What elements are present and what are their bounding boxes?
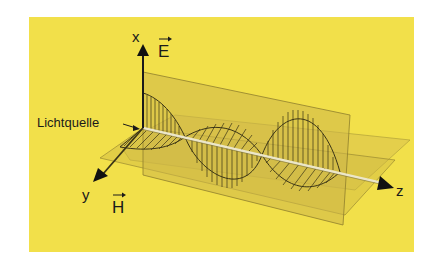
h-field-text: H bbox=[112, 198, 124, 217]
right-arrow-icon bbox=[159, 36, 172, 42]
e-field-label: E bbox=[158, 43, 169, 60]
h-field-label: H bbox=[112, 199, 124, 216]
right-arrow-icon bbox=[113, 192, 126, 198]
x-axis-label: x bbox=[132, 29, 140, 44]
z-axis-arrowhead bbox=[377, 176, 394, 190]
e-field-text: E bbox=[158, 42, 169, 61]
y-axis-label: y bbox=[82, 187, 90, 202]
z-axis-label: z bbox=[396, 183, 404, 198]
x-axis-arrowhead bbox=[137, 44, 149, 56]
light-source-label: Lichtquelle bbox=[37, 116, 99, 129]
xz-plane bbox=[143, 72, 350, 225]
